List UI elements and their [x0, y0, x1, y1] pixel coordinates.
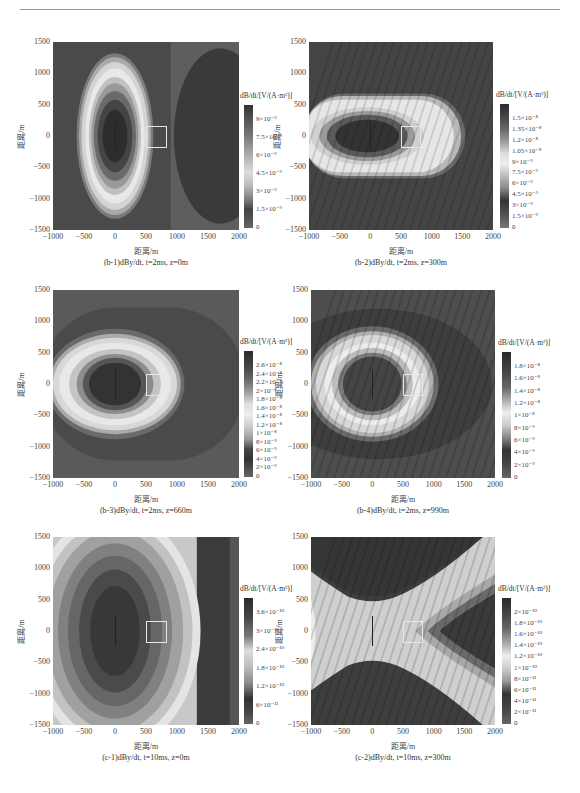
colorbar-tick-label: 0 — [512, 223, 516, 231]
colorbar-tick-label: 1.2×10⁻⁸ — [256, 421, 282, 429]
y-tick-label: 1500 — [20, 532, 50, 541]
x-tick-label: 0 — [98, 232, 132, 241]
colorbar-tick-label: 3.6×10⁻¹⁰ — [256, 608, 284, 616]
colorbar-tick-label: 1.6×10⁻¹⁰ — [514, 630, 542, 638]
x-tick-label: 1500 — [447, 727, 481, 736]
x-tick-label: 1500 — [191, 727, 225, 736]
colorbar-tick-label: 6×10⁻¹¹ — [514, 686, 536, 694]
colorbar-tick-label: 7.5×10⁻⁹ — [512, 168, 538, 176]
y-tick-label: 1000 — [20, 68, 50, 77]
y-tick-label: 500 — [20, 595, 50, 604]
colorbar-title: dB/dt/[V/(A·m²)] — [240, 584, 292, 593]
colorbar-title: dB/dt/[V/(A·m²)] — [240, 337, 292, 346]
y-tick-label: −1000 — [20, 689, 50, 698]
y-tick-label: −1000 — [278, 689, 308, 698]
y-tick-label: 1500 — [20, 285, 50, 294]
y-tick-label: 1500 — [278, 285, 308, 294]
x-tick-label: 1000 — [160, 232, 194, 241]
y-tick-label: 1000 — [278, 316, 308, 325]
x-tick-label: 2000 — [222, 480, 256, 489]
colorbar-tick-label: 6×10⁻¹¹ — [256, 701, 278, 709]
colorbar-tick-label: 8×10⁻⁹ — [514, 424, 535, 432]
colorbar-tick-label: 4×10⁻⁹ — [514, 448, 535, 456]
x-tick-label: 500 — [384, 232, 418, 241]
y-axis-label: 距离/m — [15, 122, 26, 152]
x-tick-label: −1000 — [292, 232, 326, 241]
y-tick-label: 500 — [278, 348, 308, 357]
colorbar-tick-label: 1.6×10⁻⁸ — [514, 374, 540, 382]
colorbar-tick-label: 3×10⁻⁹ — [256, 187, 277, 195]
header-rule — [20, 9, 560, 10]
x-tick-label: 2000 — [478, 727, 512, 736]
x-tick-label: 2000 — [222, 232, 256, 241]
colorbar-tick-label: 4×10⁻⁹ — [256, 455, 277, 463]
figure-caption: (b-4)dBy/dt, t=2ms, z=990m — [311, 506, 495, 515]
source-line — [115, 616, 116, 646]
target-marker-box — [146, 126, 167, 149]
y-tick-label: −1000 — [20, 194, 50, 203]
y-tick-label: −500 — [20, 657, 50, 666]
colorbar-tick-label: 6×10⁻⁹ — [512, 179, 533, 187]
colorbar-tick-label: 1.35×10⁻⁸ — [512, 125, 541, 133]
x-tick-label: 2000 — [478, 480, 512, 489]
target-marker-box — [146, 374, 167, 397]
colorbar-tick-label: 1.4×10⁻¹⁰ — [514, 641, 542, 649]
colorbar-title: dB/dt/[V/(A·m²)] — [498, 584, 550, 593]
colorbar — [500, 104, 509, 228]
x-axis-label: 距离/m — [311, 493, 495, 504]
source-line — [115, 369, 116, 399]
colorbar — [502, 352, 511, 478]
colorbar-tick-label: 1.5×10⁻⁹ — [512, 212, 538, 220]
x-tick-label: 1000 — [160, 480, 194, 489]
colorbar-tick-label: 8×10⁻⁹ — [256, 438, 277, 446]
y-tick-label: −1000 — [276, 194, 306, 203]
y-tick-label: 500 — [20, 100, 50, 109]
target-marker-box — [146, 621, 167, 644]
colorbar-tick-label: 4.5×10⁻⁹ — [512, 190, 538, 198]
y-tick-label: −500 — [276, 162, 306, 171]
colorbar — [244, 598, 253, 724]
y-tick-label: −500 — [278, 657, 308, 666]
colorbar-title: dB/dt/[V/(A·m²)] — [240, 91, 292, 100]
figure-caption: (b-2)dBy/dt, t=2ms, z=300m — [309, 258, 493, 267]
x-axis-label: 距离/m — [311, 740, 495, 751]
y-axis-label: 距离/m — [273, 370, 284, 400]
source-line — [372, 616, 373, 646]
x-tick-label: 0 — [355, 727, 389, 736]
x-tick-label: 1000 — [415, 232, 449, 241]
x-tick-label: −500 — [67, 480, 101, 489]
x-tick-label: 500 — [386, 480, 420, 489]
figure-caption: (c-2)dBy/dt, t=10ms, z=300m — [311, 753, 495, 762]
colorbar — [244, 105, 253, 228]
colorbar-tick-label: 2×10⁻¹¹ — [514, 708, 536, 716]
y-tick-label: 500 — [278, 595, 308, 604]
colorbar-tick-label: 0 — [514, 719, 518, 727]
y-tick-label: −500 — [278, 410, 308, 419]
colorbar-tick-label: 1.2×10⁻⁸ — [512, 136, 538, 144]
y-tick-label: 500 — [20, 348, 50, 357]
y-tick-label: 1500 — [20, 37, 50, 46]
y-tick-label: 500 — [276, 100, 306, 109]
x-tick-label: −500 — [323, 232, 357, 241]
colorbar-tick-label: 1.4×10⁻⁸ — [514, 387, 540, 395]
y-tick-label: −1000 — [20, 442, 50, 451]
colorbar-tick-label: 8×10⁻¹¹ — [514, 675, 536, 683]
colorbar-tick-label: 3×10⁻⁹ — [512, 201, 533, 209]
x-tick-label: 2000 — [476, 232, 510, 241]
colorbar-tick-label: 0 — [256, 223, 260, 231]
y-axis-label: 距离/m — [273, 617, 284, 647]
colorbar-tick-label: 2×10⁻¹⁰ — [514, 608, 537, 616]
figure-caption: (b-3)dBy/dt, t=2ms, z=660m — [53, 506, 239, 515]
colorbar-tick-label: 1×10⁻⁸ — [514, 411, 535, 419]
colorbar-tick-label: 1.2×10⁻¹⁰ — [514, 652, 542, 660]
colorbar-tick-label: 1.5×10⁻⁹ — [256, 205, 282, 213]
x-tick-label: 500 — [129, 480, 163, 489]
colorbar-tick-label: 4×10⁻¹¹ — [514, 697, 536, 705]
x-tick-label: 1500 — [191, 480, 225, 489]
x-tick-label: 500 — [129, 232, 163, 241]
y-axis-label: 距离/m — [271, 122, 282, 152]
x-tick-label: 0 — [353, 232, 387, 241]
x-tick-label: 0 — [355, 480, 389, 489]
x-tick-label: 0 — [98, 727, 132, 736]
x-tick-label: 1500 — [445, 232, 479, 241]
